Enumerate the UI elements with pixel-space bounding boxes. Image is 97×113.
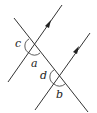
angle-arc-b — [54, 84, 65, 86]
angle-label-c: c — [15, 38, 21, 49]
angle-label-d: d — [40, 70, 47, 81]
angle-label-b: b — [56, 89, 63, 100]
diagram-svg — [0, 0, 97, 113]
angle-arc-c — [25, 39, 29, 53]
arrow-icon-line-1 — [45, 20, 51, 28]
diagram-canvas: c a d b — [0, 0, 97, 113]
angle-label-a: a — [31, 58, 38, 69]
angle-arc-d — [50, 70, 54, 84]
angle-arc-a — [29, 53, 40, 55]
transversal-line — [14, 18, 88, 112]
